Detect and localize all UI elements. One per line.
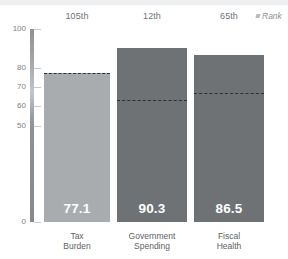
reference-dashed-line (117, 100, 187, 101)
bar[interactable]: 86.5 (194, 55, 264, 222)
y-axis-tick-label: 50 (0, 122, 26, 130)
y-axis-tick-label: 70 (0, 83, 26, 91)
y-axis-tick (34, 68, 41, 69)
category-label: Fiscal Health (188, 231, 270, 251)
category-label: Government Spending (111, 231, 193, 251)
bar-value-label: 86.5 (194, 201, 264, 216)
y-axis-tick (34, 222, 41, 223)
y-axis-tick (34, 29, 41, 30)
category-label: Tax Burden (38, 231, 116, 251)
y-axis-tick-label: 100 (0, 25, 26, 33)
y-axis-tick-label: 80 (0, 64, 26, 72)
bar[interactable]: 77.1 (44, 73, 110, 222)
y-axis-tick-label: 0 (0, 218, 26, 226)
y-axis-tick (34, 126, 41, 127)
y-axis-tick (34, 87, 41, 88)
bar-chart-plot: 100807060500 77.190.386.5 Tax BurdenGove… (0, 0, 288, 259)
y-axis-tick-label: 60 (0, 102, 26, 110)
bar-value-label: 90.3 (117, 201, 187, 216)
reference-dashed-line (44, 73, 110, 74)
reference-dashed-line (194, 93, 264, 94)
bar-value-label: 77.1 (44, 201, 110, 216)
y-axis-tick (34, 106, 41, 107)
bar[interactable]: 90.3 (117, 48, 187, 222)
